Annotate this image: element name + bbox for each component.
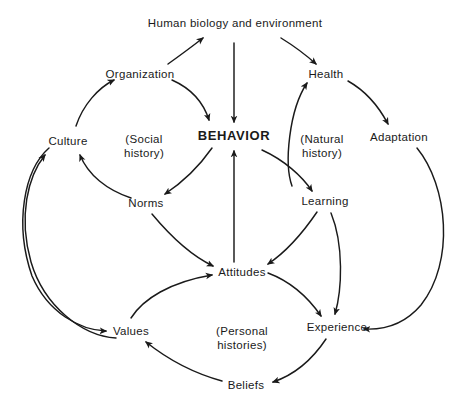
- node-label-text: Values: [113, 325, 149, 337]
- edge-health-to-adaptation: [348, 81, 388, 124]
- edge-organization-to-human-biology: [168, 38, 203, 64]
- diagram-canvas: Human biology and environment Organizati…: [0, 0, 470, 407]
- node-organization[interactable]: Organization: [106, 67, 175, 81]
- node-label-text: Adaptation: [370, 131, 428, 143]
- node-label-text: Beliefs: [228, 379, 265, 391]
- node-values[interactable]: Values: [113, 324, 149, 338]
- edge-culture-to-organization: [76, 80, 114, 126]
- node-label-text: Culture: [48, 135, 87, 147]
- annotation-text: (Personal histories): [216, 325, 268, 351]
- node-attitudes[interactable]: Attitudes: [218, 265, 265, 279]
- node-label-text: Experience: [307, 321, 368, 333]
- node-label-text: Learning: [301, 195, 348, 207]
- node-learning[interactable]: Learning: [301, 194, 348, 208]
- edge-beliefs-to-values: [146, 342, 222, 381]
- node-behavior[interactable]: BEHAVIOR: [198, 128, 270, 144]
- node-label-text: Health: [308, 68, 343, 80]
- node-health[interactable]: Health: [308, 67, 343, 81]
- edge-attitudes-to-experience: [268, 273, 321, 316]
- edge-learning-to-attitudes: [268, 212, 317, 264]
- edge-human-biology-to-health: [281, 38, 316, 64]
- edge-norms-to-culture: [80, 155, 131, 198]
- edge-experience-to-beliefs: [273, 339, 326, 382]
- node-label-text: Norms: [128, 197, 163, 209]
- annotation-natural-history: (Natural history): [300, 118, 343, 160]
- annotation-social-history: (Social history): [124, 118, 164, 160]
- annotation-text: (Natural history): [300, 133, 343, 159]
- edge-adaptation-to-experience: [364, 148, 444, 329]
- node-human-biology-and-environment[interactable]: Human biology and environment: [148, 17, 322, 31]
- edge-organization-to-behavior: [172, 80, 209, 120]
- edge-behavior-to-norms: [165, 148, 212, 194]
- node-label-text: Attitudes: [218, 266, 265, 278]
- node-culture[interactable]: Culture: [48, 134, 87, 148]
- node-label-text: Human biology and environment: [148, 17, 322, 29]
- edge-norms-to-attitudes: [152, 214, 213, 266]
- edge-learning-to-experience: [331, 213, 341, 314]
- node-norms[interactable]: Norms: [128, 196, 163, 210]
- node-beliefs[interactable]: Beliefs: [228, 378, 265, 392]
- node-label-text: BEHAVIOR: [198, 128, 270, 143]
- node-adaptation[interactable]: Adaptation: [370, 130, 428, 144]
- node-label-text: Organization: [106, 68, 175, 80]
- edge-values-to-attitudes: [131, 275, 212, 318]
- annotation-text: (Social history): [124, 133, 164, 159]
- annotation-personal-histories: (Personal histories): [216, 310, 268, 352]
- node-experience[interactable]: Experience: [307, 320, 368, 334]
